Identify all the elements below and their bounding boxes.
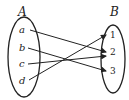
element-1: 1 — [110, 30, 116, 40]
element-c: c — [19, 58, 25, 69]
diagram-canvas: A B a b c d 1 2 3 — [0, 0, 129, 100]
element-2: 2 — [110, 47, 116, 57]
element-3: 3 — [110, 66, 116, 76]
element-d: d — [19, 75, 25, 86]
mapping-diagram: A B a b c d 1 2 3 — [0, 0, 129, 100]
set-b-label: B — [109, 5, 119, 19]
arrow-a-to-2 — [30, 30, 106, 52]
element-a: a — [19, 24, 25, 35]
set-a-label: A — [17, 5, 27, 19]
element-b: b — [19, 42, 25, 53]
